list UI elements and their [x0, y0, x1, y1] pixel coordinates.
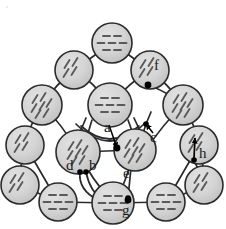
sphere-b1: [39, 183, 77, 221]
site-label-h: h: [199, 146, 207, 161]
sphere-b3: [147, 183, 185, 221]
sphere-l2: [6, 126, 44, 164]
sphere-t2: [55, 51, 93, 89]
site-label-d: d: [66, 158, 74, 173]
marker-dot-h: [191, 157, 197, 163]
site-marker-d: [77, 169, 83, 175]
marker-dot-c: [143, 121, 149, 127]
sphere-t1: [92, 23, 132, 63]
sphere-group: [1, 23, 223, 224]
marker-dot-b: [83, 169, 89, 175]
site-label-a: a: [104, 120, 111, 135]
sphere-r1: [163, 85, 203, 125]
site-label-f: f: [154, 58, 159, 73]
site-marker-f: [145, 82, 152, 89]
site-label-c: c: [150, 130, 157, 145]
cluster-diagram-svg: [0, 0, 226, 229]
marker-dot-a: [114, 145, 121, 152]
site-label-g: g: [122, 203, 130, 218]
site-marker-b: [83, 169, 89, 175]
sphere-l3: [1, 166, 39, 204]
marker-dot-f: [145, 82, 152, 89]
sphere-r3: [185, 166, 223, 204]
figure-canvas: a b c d e f g h: [0, 0, 226, 229]
site-label-e: e: [123, 166, 130, 181]
site-label-b: b: [89, 158, 97, 173]
marker-dot-d: [77, 169, 83, 175]
sphere-l1: [22, 85, 62, 125]
